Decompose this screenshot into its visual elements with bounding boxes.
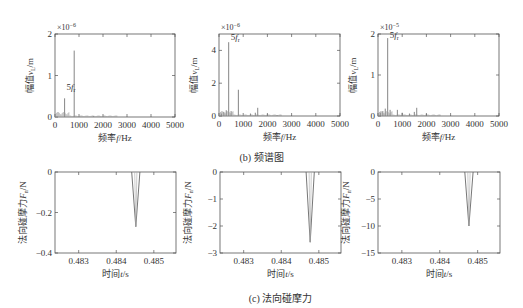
y-tick-label: 0	[371, 167, 376, 177]
chart-spectrum-3: 010002000300040005000012×10−5频率f/Hz幅值vL/…	[347, 22, 509, 142]
y-tick-label: 0	[48, 167, 53, 177]
y-tick-label: −5	[365, 194, 375, 204]
plot-frame	[219, 34, 340, 116]
chart-force-1: 0.4830.4840.4850−0.2−0.4时间t/s法向碰摩力Fn/N	[17, 167, 176, 279]
plot-frame	[378, 34, 499, 116]
x-tick-label: 0	[376, 119, 381, 129]
x-tick-label: 4000	[307, 119, 326, 129]
chart-force-3: 0.4830.4840.4850−5−10−15时间t/s法向碰摩力Fn/N	[340, 167, 500, 279]
x-tick-label: 3000	[118, 120, 137, 130]
y-multiplier: ×10−6	[221, 22, 240, 32]
y-axis-label: 幅值vL/m	[188, 57, 200, 92]
chart-spectrum-1: 010002000300040005000012×10−6频率f/Hz幅值vL/…	[24, 22, 185, 143]
x-tick-label: 0.485	[468, 256, 489, 266]
x-tick-label: 5000	[166, 120, 185, 130]
x-tick-label: 5000	[490, 119, 509, 129]
x-tick-label: 2000	[94, 120, 113, 130]
x-tick-label: 0.484	[271, 256, 292, 266]
y-tick-label: 0	[213, 167, 218, 177]
x-tick-label: 4000	[466, 119, 485, 129]
x-tick-label: 1000	[393, 119, 412, 129]
y-tick-label: −2	[207, 221, 217, 231]
x-tick-label: 0.483	[69, 256, 90, 266]
harmonic-annotation: 5fr	[390, 30, 399, 41]
y-tick-label: 2	[371, 29, 376, 39]
x-axis-label: 频率f/Hz	[98, 132, 132, 143]
plot-frame	[55, 34, 175, 117]
x-tick-label: 0.483	[392, 256, 413, 266]
x-axis-label: 频率f/Hz	[422, 131, 456, 142]
x-tick-label: 2000	[258, 119, 277, 129]
y-tick-label: 0	[48, 112, 53, 122]
x-axis-label: 时间t/s	[267, 268, 294, 279]
y-axis-label: 法向碰摩力Fn/N	[17, 181, 29, 244]
y-tick-label: 4	[212, 45, 217, 55]
x-tick-label: 0.484	[106, 256, 127, 266]
x-axis-label: 时间t/s	[426, 268, 453, 279]
x-tick-label: 3000	[442, 119, 461, 129]
y-tick-label: 0	[371, 111, 376, 121]
y-tick-label: 2	[48, 29, 53, 39]
x-tick-label: 0	[217, 119, 222, 129]
chart-spectrum-2: 010002000300040005000024×10−6频率f/Hz幅值vL/…	[188, 22, 350, 142]
y-tick-label: −1	[207, 194, 217, 204]
plot-frame	[55, 172, 176, 253]
y-axis-label: 法向碰摩力Fn/N	[182, 181, 194, 244]
y-tick-label: −0.2	[36, 208, 52, 218]
x-tick-label: 2000	[417, 119, 436, 129]
y-tick-label: −15	[361, 248, 376, 258]
y-multiplier: ×10−6	[57, 22, 76, 32]
caption-normal-force: (c) 法向碰摩力	[220, 290, 341, 305]
y-tick-label: 1	[371, 70, 376, 80]
y-axis-label: 幅值vL/m	[24, 58, 36, 93]
y-tick-label: 0	[212, 111, 217, 121]
x-tick-label: 0.484	[430, 256, 451, 266]
y-axis-label: 法向碰摩力Fn/N	[340, 181, 352, 244]
y-tick-label: −3	[207, 248, 217, 258]
y-tick-label: 2	[212, 78, 217, 88]
x-tick-label: 0.483	[234, 256, 255, 266]
y-tick-label: −10	[361, 221, 376, 231]
x-tick-label: 0	[53, 120, 58, 130]
y-tick-label: −0.4	[36, 248, 53, 258]
caption-spectrum: (b) 频谱图	[0, 149, 523, 164]
x-tick-label: 5000	[331, 119, 350, 129]
x-tick-label: 0.485	[309, 256, 330, 266]
plot-frame	[378, 172, 500, 253]
plot-frame	[220, 172, 341, 253]
x-tick-label: 0.485	[144, 256, 165, 266]
y-axis-label: 幅值vL/m	[347, 57, 359, 92]
x-tick-label: 4000	[142, 120, 161, 130]
x-tick-label: 1000	[234, 119, 253, 129]
x-tick-label: 1000	[70, 120, 89, 130]
x-tick-label: 3000	[283, 119, 302, 129]
x-axis-label: 时间t/s	[102, 268, 129, 279]
chart-force-2: 0.4830.4840.4850−1−2−3时间t/s法向碰摩力Fn/N	[182, 167, 341, 279]
x-axis-label: 频率f/Hz	[263, 131, 297, 142]
y-tick-label: 1	[48, 71, 53, 81]
